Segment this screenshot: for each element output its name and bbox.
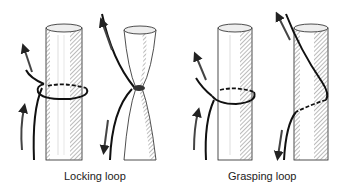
knot-diagram — [0, 0, 346, 190]
arrow-icons-grasping-loose — [194, 56, 206, 150]
arrow-icons-grasping-tight — [278, 16, 290, 156]
arrow-up-icon — [102, 22, 112, 50]
caption-grasping-loop: Grasping loop — [228, 170, 297, 182]
arrow-down-icon — [104, 120, 108, 150]
arrow-up-icon — [194, 112, 198, 150]
arrow-up-icon — [24, 48, 32, 72]
post-grasping-loose — [218, 24, 252, 160]
arrow-icons-locking-loose — [21, 48, 32, 150]
arrow-up-icon — [196, 56, 206, 80]
arrow-down-icon — [278, 130, 282, 156]
arrow-up-icon — [21, 108, 24, 150]
caption-locking-loop: Locking loop — [64, 170, 126, 182]
post-locking-loose — [46, 24, 82, 160]
